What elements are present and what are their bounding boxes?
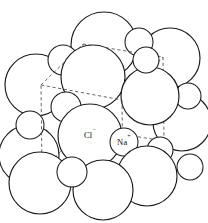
- nacl-lattice-diagram: Cl− Na+: [0, 0, 208, 223]
- sodium-sphere-front-bottom-left: [57, 157, 87, 187]
- chloride-charge-text: −: [92, 126, 96, 132]
- sodium-charge-text: +: [127, 133, 131, 139]
- chloride-sphere-middle-right: [121, 67, 179, 125]
- sodium-sphere-front-far-right: [177, 154, 203, 180]
- nacl-crystal-figure: Cl− Na+: [0, 0, 208, 223]
- sodium-sphere-middle-upper-right: [133, 47, 159, 73]
- sodium-label-text: Na: [117, 137, 127, 147]
- sodium-sphere-back-mid-left: [16, 111, 44, 139]
